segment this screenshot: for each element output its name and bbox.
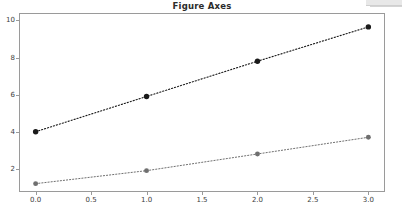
y-tick-label: 2 — [1, 165, 15, 173]
page-title: Figure Axes — [19, 1, 385, 11]
y-tick-mark — [16, 169, 19, 170]
series-line — [36, 137, 369, 183]
x-tick-mark — [91, 192, 92, 195]
x-tick-mark — [368, 192, 369, 195]
figure-canvas: Figure Axes 246810 0.00.51.01.52.02.53.0 — [0, 0, 402, 214]
y-tick-mark — [16, 58, 19, 59]
x-tick-mark — [202, 192, 203, 195]
x-tick-label: 0.5 — [79, 196, 103, 204]
data-point-marker — [33, 181, 38, 186]
x-tick-mark — [257, 192, 258, 195]
x-tick-label: 2.0 — [245, 196, 269, 204]
y-tick-label: 6 — [1, 91, 15, 99]
data-point-marker — [255, 59, 260, 64]
series-line — [36, 27, 369, 132]
data-point-marker — [33, 129, 38, 134]
data-point-marker — [366, 135, 371, 140]
data-point-marker — [144, 94, 149, 99]
y-tick-mark — [16, 20, 19, 21]
y-tick-label: 8 — [1, 54, 15, 62]
x-tick-label: 0.0 — [24, 196, 48, 204]
x-tick-label: 1.5 — [190, 196, 214, 204]
x-tick-mark — [313, 192, 314, 195]
y-tick-label: 4 — [1, 128, 15, 136]
data-point-marker — [144, 168, 149, 173]
x-tick-mark — [36, 192, 37, 195]
x-tick-label: 1.0 — [135, 196, 159, 204]
data-point-marker — [366, 24, 371, 29]
x-tick-mark — [147, 192, 148, 195]
x-tick-label: 2.5 — [301, 196, 325, 204]
y-tick-label: 10 — [1, 16, 15, 24]
y-tick-mark — [16, 95, 19, 96]
data-point-marker — [255, 152, 260, 157]
y-tick-mark — [16, 132, 19, 133]
plot-area — [19, 13, 385, 192]
x-tick-label: 3.0 — [356, 196, 380, 204]
